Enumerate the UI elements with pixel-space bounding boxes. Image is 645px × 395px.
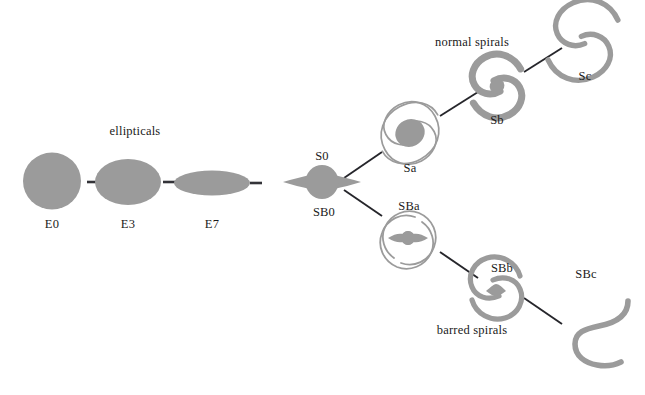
label-sbc: SBc	[575, 267, 597, 281]
galaxy-sba	[380, 211, 435, 269]
label-s0: S0	[315, 149, 329, 163]
label-e0: E0	[45, 217, 59, 231]
label-sb: Sb	[490, 113, 504, 127]
group-label-barred-spirals: barred spirals	[437, 323, 507, 337]
galaxy-e3	[95, 159, 161, 205]
label-sa: Sa	[404, 161, 417, 175]
label-e7: E7	[205, 217, 219, 231]
galaxy-e0	[23, 153, 81, 210]
label-e3: E3	[121, 217, 135, 231]
hubble-tuning-fork-diagram: E0 E3 E7 S0 SB0 Sa Sb Sc SBa SBb SBc ell…	[0, 0, 645, 395]
connector-sb0-sba	[344, 190, 382, 216]
galaxy-e7	[174, 171, 250, 196]
group-label-ellipticals: ellipticals	[110, 124, 161, 138]
fork-connectors	[344, 48, 562, 324]
connector-sbb-sbc	[524, 298, 562, 324]
label-sba: SBa	[398, 199, 420, 213]
label-sb0: SB0	[313, 205, 335, 219]
group-label-normal-spirals: normal spirals	[435, 35, 509, 49]
label-sbb: SBb	[491, 261, 513, 275]
label-sc: Sc	[579, 69, 592, 83]
connector-s0-sa	[344, 152, 382, 178]
galaxy-sbc	[575, 301, 628, 366]
